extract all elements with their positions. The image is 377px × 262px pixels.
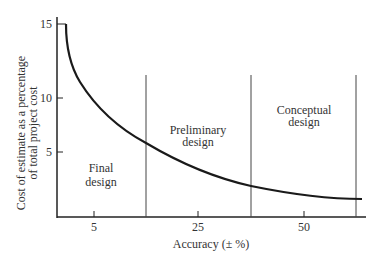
x-axis-label: Accuracy (± %): [173, 237, 250, 251]
y-tick-label-15: 15: [40, 17, 52, 31]
region-label-final-line2: design: [85, 175, 116, 189]
region-label-conceptual-line2: design: [288, 115, 319, 129]
chart: 15 10 5 5 25 50 Final design Preliminary…: [0, 0, 377, 262]
x-tick-label-50: 50: [298, 220, 310, 234]
region-label-preliminary-line2: design: [182, 135, 213, 149]
x-tick-label-25: 25: [192, 220, 204, 234]
y-tick-label-5: 5: [46, 145, 52, 159]
y-axis-label-line2: of total project cost: [26, 86, 40, 180]
region-label-final-line1: Final: [89, 161, 114, 175]
x-tick-label-5: 5: [91, 220, 97, 234]
y-tick-label-10: 10: [40, 91, 52, 105]
